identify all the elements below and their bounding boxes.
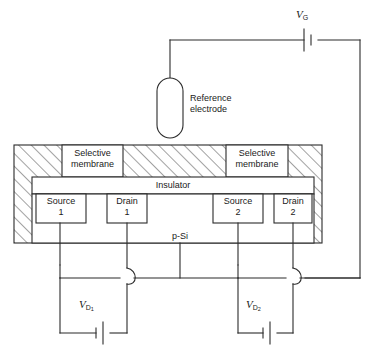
battery-vg-symbol [304, 29, 311, 51]
drain-1-box [107, 194, 147, 223]
drain-1-voltage-label: VD1 [79, 298, 94, 312]
drain-2-box [274, 194, 312, 223]
drain-2-voltage-label: VD2 [246, 298, 261, 312]
selective-membrane-1-region [62, 145, 123, 177]
insulator-layer [32, 177, 314, 194]
gate-voltage-label: VG [296, 8, 308, 22]
figure-canvas: VG Reference electrode Selective membran… [0, 0, 376, 360]
isfet-schematic [0, 0, 376, 360]
reference-electrode-body [157, 78, 183, 138]
source-2-box [213, 194, 263, 223]
battery-vd1-symbol [96, 322, 103, 344]
selective-membrane-2-region [226, 145, 288, 177]
common-rail-wire [60, 265, 360, 278]
battery-vd2-symbol [263, 322, 270, 344]
wire-hop-drain-1 [127, 268, 135, 284]
wire-hop-drain-2 [293, 268, 301, 284]
source-1-box [36, 194, 86, 223]
